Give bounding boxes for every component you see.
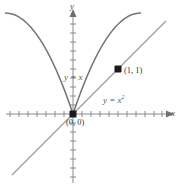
- plot-canvas: [0, 0, 181, 187]
- figure-graph-y-x-and-y-x-squared: y x y = x y = x2 (0, 0) (1, 1): [0, 0, 181, 187]
- y-axis-label: y: [70, 2, 74, 11]
- x-axis-label: x: [171, 109, 175, 118]
- point-marker-one-one: [115, 66, 122, 73]
- x-axis: [6, 111, 174, 118]
- label-parabola-equation: y = x2: [103, 94, 125, 105]
- label-point-one-one: (1, 1): [124, 66, 142, 75]
- label-line-equation: y = x: [64, 73, 83, 82]
- y-axis: [70, 9, 77, 183]
- label-parabola-exponent: 2: [122, 94, 125, 100]
- curve-line-y-equals-x: [12, 21, 166, 175]
- label-parabola-equation-base: y = x: [103, 95, 122, 105]
- label-point-origin: (0, 0): [66, 118, 84, 127]
